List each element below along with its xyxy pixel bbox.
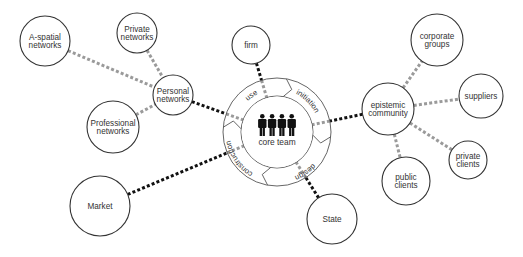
phase-chevron-icon [313, 135, 331, 143]
link-state-core [306, 178, 319, 198]
node-label: networks [97, 127, 130, 136]
node-label: networks [29, 41, 62, 50]
node-private-networks: Privatenetworks [117, 13, 157, 53]
node-label: clients [394, 181, 417, 190]
node-label: community [368, 109, 408, 118]
link-firm-ring [262, 80, 267, 97]
node-label: firm [244, 41, 258, 50]
node-corporate-groups: corporategroups [411, 14, 463, 66]
node-market: Market [70, 176, 130, 236]
link-epistemic-community-private-clients [410, 123, 452, 150]
link-epistemic-community-core [330, 114, 363, 121]
link-personal-networks-core [192, 102, 226, 114]
node-label: suppliers [465, 92, 498, 101]
phase-chevron-icon [283, 79, 292, 97]
link-market-core [128, 153, 228, 195]
node-label: networks [157, 95, 190, 104]
link-private-networks-personal-networks [147, 50, 163, 77]
node-label: clients [456, 160, 479, 169]
node-label: networks [121, 33, 154, 42]
node-label: State [322, 215, 342, 224]
link-firm-core [256, 63, 261, 80]
link-epistemic-community-ring [312, 121, 330, 125]
node-personal-networks: Personalnetworks [153, 75, 193, 115]
node-professional-networks: Professionalnetworks [87, 101, 139, 153]
node-state: State [307, 194, 357, 244]
node-label: Market [87, 202, 113, 211]
link-epistemic-community-public-clients [394, 134, 400, 157]
node-suppliers: suppliers [459, 74, 503, 118]
network-diagram: useinitiationdesignconstruction A-spatia… [0, 0, 523, 257]
link-epistemic-community-suppliers [414, 99, 459, 105]
node-public-clients: publicclients [382, 157, 430, 205]
core-team-label: core team [258, 137, 295, 147]
node-a-spatial: A-spatialnetworks [20, 16, 70, 66]
link-personal-networks-ring [226, 114, 243, 120]
node-label: groups [424, 40, 449, 49]
phase-chevron-icon [262, 167, 271, 185]
node-epistemic-community: epistemiccommunity [362, 83, 414, 135]
link-epistemic-community-corporate-groups [403, 61, 422, 88]
phase-chevron-icon [223, 121, 241, 129]
link-a-spatial-personal-networks [68, 51, 155, 88]
node-private-clients: privateclients [449, 141, 487, 179]
link-professional-networks-personal-networks [136, 104, 155, 114]
node-firm: firm [232, 26, 270, 64]
phase-label-use: use [243, 88, 259, 103]
